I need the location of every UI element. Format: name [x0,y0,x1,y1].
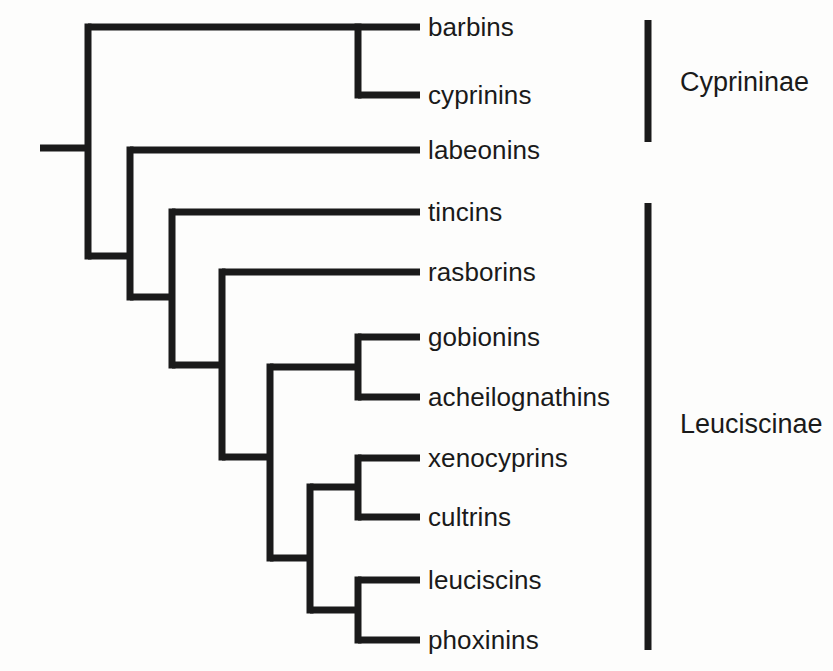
cladogram-figure: barbinscyprininslabeoninstincinsrasborin… [0,0,833,671]
group-label-leuciscinae: Leuciscinae [680,411,823,438]
tip-label-leuciscins: leuciscins [428,567,542,593]
tip-label-cyprinins: cyprinins [428,82,532,108]
tip-label-barbins: barbins [428,14,514,40]
tip-label-rasborins: rasborins [428,259,536,285]
tip-label-phoxinins: phoxinins [428,627,539,653]
tip-label-tincins: tincins [428,199,502,225]
tip-label-gobionins: gobionins [428,324,540,350]
tip-label-cultrins: cultrins [428,504,511,530]
tip-label-xenocyprins: xenocyprins [428,445,568,471]
tip-label-acheilognathins: acheilognathins [428,384,610,410]
group-label-cyprininae: Cyprininae [680,69,809,96]
tree-skeleton [0,0,833,671]
tip-label-labeonins: labeonins [428,137,540,163]
tree-branch-lines [40,24,420,644]
